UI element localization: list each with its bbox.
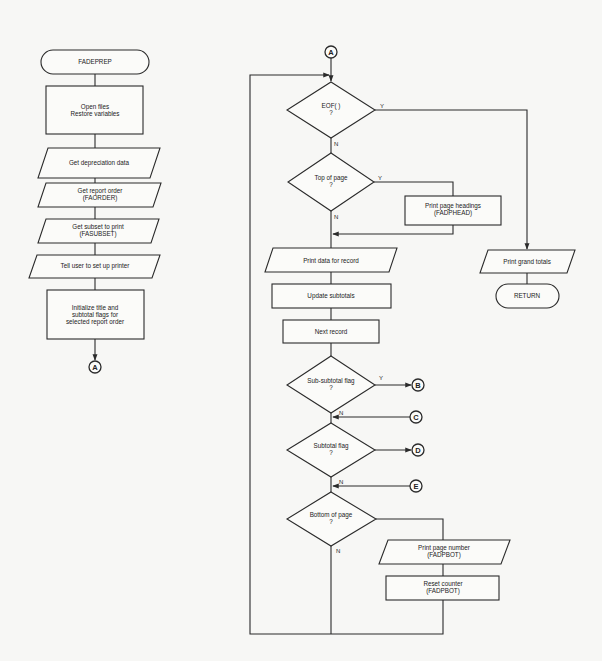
connector-a-in-label: A [328,48,334,57]
get-report-order-io: Get report order (FAORDER) [38,183,161,207]
initialize-line-1: Initialize title and [72,304,119,311]
bottom-of-page-no-label: N [336,548,340,554]
next-record-label: Next record [315,328,348,335]
update-subtotals-process: Update subtotals [272,284,391,308]
print-grand-totals-label: Print grand totals [503,258,551,266]
loop-back-line [250,75,331,634]
right-flow: A EOF( ) ? Y N Top of page ? Y N Pri [250,46,575,634]
top-of-page-yes-label: Y [378,175,382,181]
sub-subtotal-no-label: N [339,410,343,416]
get-depreciation-io: Get depreciation data [38,148,160,178]
sub-subtotal-yes-label: Y [379,375,383,381]
initialize-line-3: selected report order [66,318,124,326]
reset-counter-label: Reset counter [423,580,462,587]
bottom-of-page-yes-line [376,519,443,540]
subtotal-question: ? [329,449,333,456]
fadpbot-label-2: (FADPBOT) [426,587,460,595]
top-of-page-decision: Top of page ? [288,153,374,211]
return-label: RETURN [514,292,541,299]
connector-b-label: B [415,381,421,390]
restore-variables-label: Restore variables [71,110,120,117]
connector-a-out-label: A [92,363,98,372]
connector-c-label: C [413,413,419,422]
open-files-process: Open files Restore variables [46,86,143,134]
reset-counter-process: Reset counter (FADPBOT) [386,576,499,600]
eof-no-label: N [334,141,338,147]
top-of-page-yes-line [374,182,453,196]
reset-return-line [331,600,443,634]
headings-return-line [333,225,453,234]
eof-yes-line [375,110,527,249]
top-of-page-question: ? [329,181,333,188]
connector-d-label: D [415,446,421,455]
print-data-io: Print data for record [265,248,397,272]
faorder-label: (FAORDER) [83,194,118,202]
bottom-of-page-decision: Bottom of page ? [287,492,376,546]
start-label: FADEPREP [78,58,112,65]
connector-a-out: A [89,361,101,373]
left-flow: FADEPREP Open files Restore variables Ge… [29,50,161,373]
get-depreciation-label: Get depreciation data [69,159,130,167]
eof-decision: EOF( ) ? [287,82,375,138]
eof-yes-label: Y [380,103,384,109]
flowchart-canvas: FADEPREP Open files Restore variables Ge… [0,0,602,661]
next-record-process: Next record [283,320,379,343]
tell-user-io: Tell user to set up printer [29,255,160,278]
sub-subtotal-decision: Sub-subtotal flag ? [287,356,375,413]
print-page-number-io: Print page number (FADPBOT) [379,540,510,564]
get-subset-io: Get subset to print (FASUBSET) [38,219,159,243]
connector-c: C [410,411,422,423]
subtotal-decision: Subtotal flag ? [287,423,375,477]
print-grand-totals-io: Print grand totals [480,250,575,273]
connector-e-label: E [413,482,418,491]
subtotal-no-label: N [339,479,343,485]
eof-question: ? [329,109,333,116]
fadphead-label: (FADPHEAD) [434,209,472,217]
initialize-process: Initialize title and subtotal flags for … [47,290,144,339]
tell-user-label: Tell user to set up printer [61,262,130,270]
print-headings-process: Print page headings (FADPHEAD) [405,196,501,225]
bottom-of-page-question: ? [329,518,333,525]
top-of-page-no-label: N [334,214,338,220]
start-terminator: FADEPREP [41,50,149,74]
fadpbot-label-1: (FADPBOT) [427,551,461,559]
connector-b: B [412,379,424,391]
connector-d: D [412,444,424,456]
fasubset-label: (FASUBSET) [79,230,116,238]
connector-a-in: A [325,46,337,58]
return-terminator: RETURN [496,284,559,308]
sub-subtotal-question: ? [329,384,333,391]
connector-e: E [410,480,422,492]
print-data-label: Print data for record [303,257,359,264]
update-subtotals-label: Update subtotals [307,292,354,300]
